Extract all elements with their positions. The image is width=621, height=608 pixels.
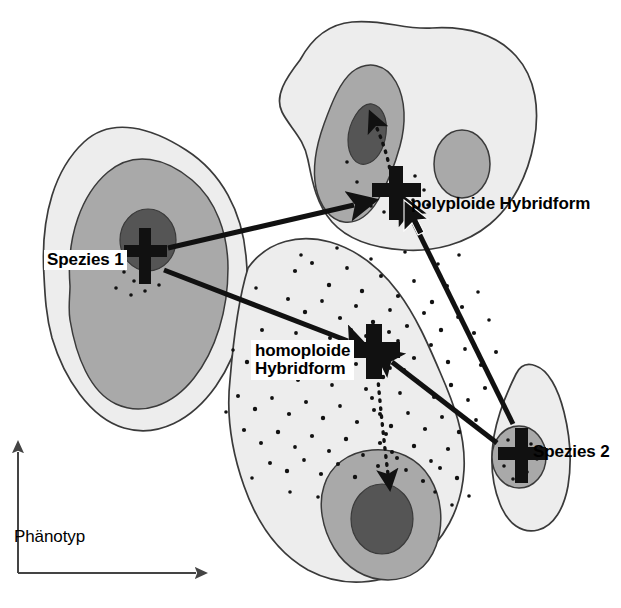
label-spezies-2: Spezies 2 xyxy=(531,442,612,462)
diagram-canvas: Spezies 1 polyploide Hybridform homoploi… xyxy=(0,0,621,608)
label-homoploide-line1: homoploide xyxy=(255,341,350,360)
axis-label-phaenotyp: Phänotyp xyxy=(14,528,85,546)
peak-lower xyxy=(351,484,413,554)
label-homoploide-line2: Hybridform xyxy=(255,359,346,378)
label-polyploide-hybridform: polyploide Hybridform xyxy=(409,194,592,214)
label-homoploide-hybridform: homoploideHybridform xyxy=(251,340,354,380)
label-spezies-1: Spezies 1 xyxy=(44,250,127,270)
adaptive-landscape-figure xyxy=(0,0,621,608)
mid-contour-satellite-oval xyxy=(434,130,490,198)
axis-group xyxy=(18,452,196,573)
